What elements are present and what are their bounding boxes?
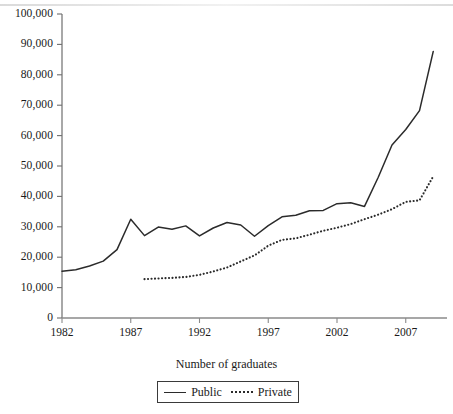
legend-entry-public: Public xyxy=(164,385,222,400)
chart-legend: Public Private xyxy=(157,381,299,403)
dotted-line-swatch-icon xyxy=(231,391,253,393)
legend-entry-private: Private xyxy=(231,385,292,400)
legend-label-public: Public xyxy=(191,385,222,400)
y-tick-label: 20,000 xyxy=(0,251,53,263)
y-tick-label: 0 xyxy=(0,312,53,324)
y-tick-label: 10,000 xyxy=(0,282,53,294)
x-tick-label: 1992 xyxy=(176,327,224,339)
data-series-group xyxy=(62,51,433,279)
x-tick-label: 1987 xyxy=(107,327,155,339)
x-tick-label: 1997 xyxy=(244,327,292,339)
x-tick-label: 2002 xyxy=(313,327,361,339)
solid-line-swatch-icon xyxy=(164,392,186,393)
x-tick-label: 2007 xyxy=(382,327,430,339)
y-tick-label: 30,000 xyxy=(0,221,53,233)
legend-label-private: Private xyxy=(258,385,292,400)
axes xyxy=(62,14,447,318)
x-axis-title: Number of graduates xyxy=(0,357,453,372)
y-tick-label: 50,000 xyxy=(0,160,53,172)
y-tick-label: 100,000 xyxy=(0,8,53,20)
y-tick-label: 70,000 xyxy=(0,99,53,111)
series-line-public xyxy=(62,51,433,271)
y-tick-label: 40,000 xyxy=(0,190,53,202)
line-chart: 010,00020,00030,00040,00050,00060,00070,… xyxy=(0,0,453,414)
plot-area xyxy=(0,0,453,414)
y-tick-label: 60,000 xyxy=(0,130,53,142)
y-tick-label: 90,000 xyxy=(0,38,53,50)
x-tick-label: 1982 xyxy=(38,327,86,339)
y-tick-label: 80,000 xyxy=(0,69,53,81)
y-tick-marks xyxy=(57,14,62,318)
